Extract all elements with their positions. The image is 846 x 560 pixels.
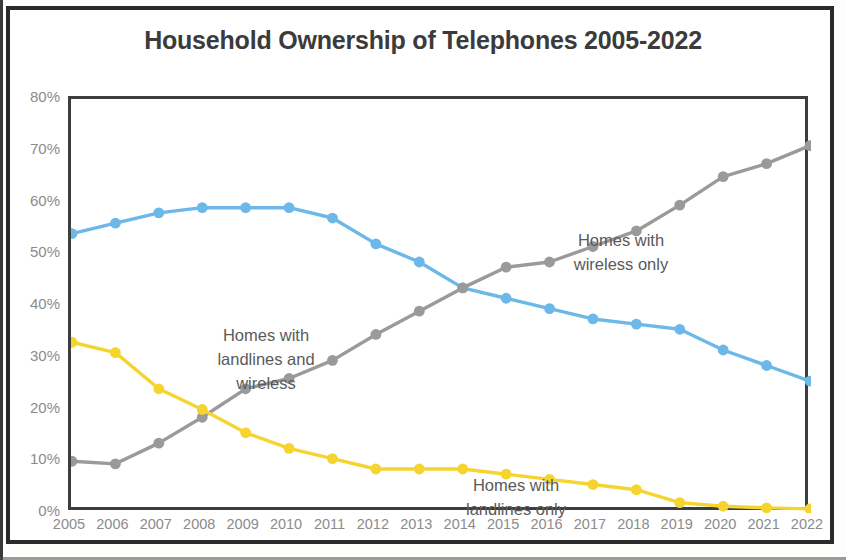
x-axis-tick-label: 2017 — [567, 516, 613, 532]
series-data-point — [718, 171, 729, 182]
x-axis-tick-label: 2015 — [480, 516, 526, 532]
series-data-point — [197, 202, 208, 213]
series-data-point — [240, 202, 251, 213]
x-axis: 2005200620072008200920102011201220132014… — [68, 516, 808, 544]
x-axis-tick-label: 2008 — [176, 516, 222, 532]
x-axis-tick-label: 2011 — [306, 516, 352, 532]
x-axis-tick-label: 2009 — [220, 516, 266, 532]
series-data-point — [284, 443, 295, 454]
series-data-point — [327, 213, 338, 224]
series-data-point — [71, 228, 77, 239]
series-data-point — [370, 329, 381, 340]
data-series — [71, 140, 811, 469]
x-axis-tick-label: 2019 — [654, 516, 700, 532]
annotation-homes-with-wireless-only: Homes with wireless only — [526, 229, 716, 277]
x-axis-tick-label: 2020 — [697, 516, 743, 532]
plot-area: Homes with landlines and wireless Homes … — [68, 96, 808, 510]
series-data-point — [153, 383, 164, 394]
series-data-point — [457, 464, 468, 475]
series-data-point — [414, 306, 425, 317]
x-axis-tick-label: 2005 — [46, 516, 92, 532]
chart-title: Household Ownership of Telephones 2005-2… — [0, 26, 846, 55]
chart-page: Household Ownership of Telephones 2005-2… — [0, 0, 846, 560]
series-data-point — [718, 501, 729, 512]
series-data-point — [544, 303, 555, 314]
series-line — [72, 146, 810, 464]
chart-plot-svg — [71, 99, 811, 513]
series-data-point — [153, 438, 164, 449]
series-data-point — [110, 458, 121, 469]
series-data-point — [71, 337, 77, 348]
series-data-point — [805, 140, 811, 151]
series-data-point — [761, 158, 772, 169]
series-data-point — [674, 324, 685, 335]
series-data-point — [153, 207, 164, 218]
series-data-point — [110, 218, 121, 229]
y-axis-tick-label: 60% — [14, 191, 60, 208]
x-axis-tick-label: 2012 — [350, 516, 396, 532]
series-data-point — [501, 262, 512, 273]
y-axis-tick-label: 70% — [14, 139, 60, 156]
series-data-point — [631, 319, 642, 330]
series-data-point — [631, 484, 642, 495]
series-data-point — [414, 257, 425, 268]
series-data-point — [370, 464, 381, 475]
series-data-point — [501, 293, 512, 304]
series-data-point — [197, 404, 208, 415]
y-axis-tick-label: 40% — [14, 295, 60, 312]
y-axis-tick-label: 20% — [14, 398, 60, 415]
series-data-point — [240, 427, 251, 438]
x-axis-tick-label: 2021 — [741, 516, 787, 532]
series-data-point — [674, 497, 685, 508]
series-data-point — [588, 314, 599, 325]
y-axis-tick-label: 30% — [14, 346, 60, 363]
series-data-point — [805, 376, 811, 387]
x-axis-tick-label: 2014 — [437, 516, 483, 532]
series-data-point — [805, 503, 811, 513]
series-data-point — [71, 456, 77, 467]
x-axis-tick-label: 2010 — [263, 516, 309, 532]
series-data-point — [761, 502, 772, 513]
y-axis-tick-label: 10% — [14, 450, 60, 467]
x-axis-tick-label: 2006 — [89, 516, 135, 532]
page-left-edge-rule — [0, 0, 3, 560]
series-data-point — [414, 464, 425, 475]
x-axis-tick-label: 2016 — [524, 516, 570, 532]
x-axis-tick-label: 2013 — [393, 516, 439, 532]
y-axis-tick-label: 80% — [14, 88, 60, 105]
series-data-point — [718, 345, 729, 356]
annotation-homes-with-both: Homes with landlines and wireless — [171, 324, 361, 396]
annotation-homes-with-landlines-only: Homes with landlines only — [401, 474, 631, 522]
x-axis-tick-label: 2022 — [784, 516, 830, 532]
x-axis-tick-label: 2007 — [133, 516, 179, 532]
series-data-point — [370, 239, 381, 250]
y-axis-tick-label: 50% — [14, 243, 60, 260]
series-data-point — [457, 282, 468, 293]
series-data-point — [674, 200, 685, 211]
series-data-point — [761, 360, 772, 371]
x-axis-tick-label: 2018 — [610, 516, 656, 532]
series-data-point — [110, 347, 121, 358]
series-data-point — [284, 202, 295, 213]
series-data-point — [327, 453, 338, 464]
y-axis: 80%70%60%50%40%30%20%10%0% — [10, 96, 60, 510]
